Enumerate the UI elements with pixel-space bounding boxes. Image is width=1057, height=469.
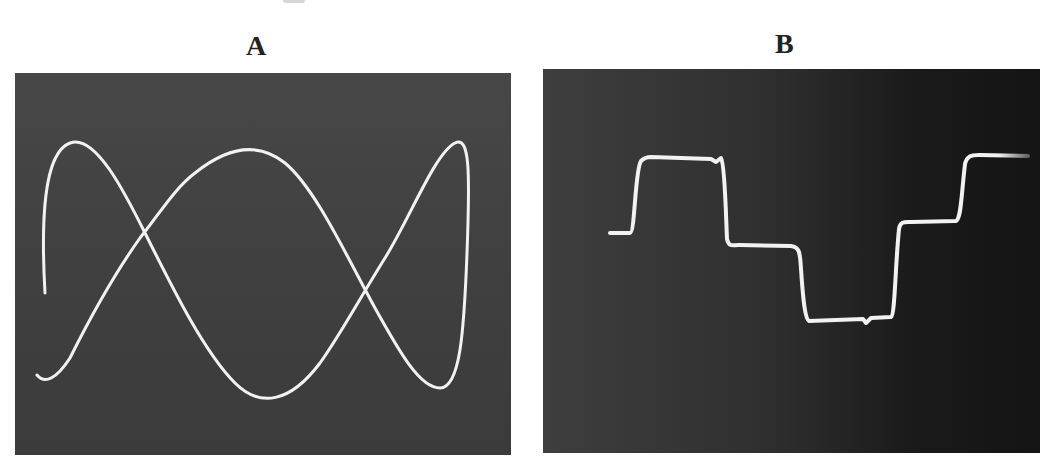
panel-a-label: A: [246, 32, 266, 60]
lissajous-trace: [15, 73, 511, 455]
top-edge-artifact: [283, 0, 305, 3]
panel-b-label: B: [775, 30, 794, 58]
staircase-trace: [543, 69, 1040, 453]
oscilloscope-panel-a: [15, 73, 511, 455]
oscilloscope-panel-b: [543, 69, 1040, 453]
